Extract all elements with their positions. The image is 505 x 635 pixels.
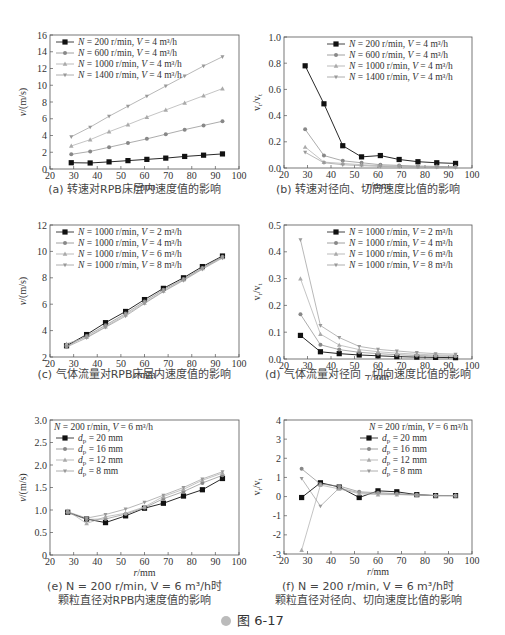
- figure-number: 图 6-17: [237, 613, 284, 628]
- plot-frame: [284, 420, 472, 554]
- caption-line: 颗粒直径对径向、切向速度比值的影响: [239, 594, 497, 608]
- y-tick-label: -3: [273, 549, 281, 560]
- y-tick-label: -1: [273, 510, 281, 521]
- x-tick-label: 50: [350, 555, 360, 566]
- legend: N = 200 r/min, V = 6 m³/hdp = 20 mmdp = …: [360, 422, 468, 478]
- x-tick-label: 40: [326, 555, 336, 566]
- chart-f: 2030405060708090100-3-2-101234r/mmvr/vtN…: [0, 0, 505, 635]
- x-tick-label: 60: [373, 555, 383, 566]
- y-tick-label: 4: [276, 415, 281, 426]
- svg-text:N = 200 r/min, V = 6 m³/h: N = 200 r/min, V = 6 m³/h: [368, 422, 468, 432]
- caption-line: (f) N = 200 r/min, V = 6 m³/h时: [239, 580, 497, 594]
- x-tick-label: 90: [444, 555, 454, 566]
- y-tick-label: 2: [276, 453, 281, 464]
- series-line: [300, 477, 458, 508]
- y-tick-label: 3: [276, 434, 281, 445]
- x-tick-label: 30: [303, 555, 313, 566]
- x-tick-label: 70: [397, 555, 407, 566]
- x-tick-label: 80: [420, 555, 430, 566]
- x-tick-label: 100: [465, 555, 480, 566]
- x-axis-label: r/mm: [367, 566, 389, 577]
- y-tick-label: -2: [273, 529, 281, 540]
- chart-caption-f: (f) N = 200 r/min, V = 6 m³/h时颗粒直径对径向、切向…: [239, 580, 497, 608]
- y-tick-label: 0: [276, 491, 281, 502]
- y-tick-label: 1: [276, 472, 281, 483]
- play-circle-icon: [221, 616, 231, 626]
- y-axis-label: vr/vt: [251, 478, 264, 495]
- svg-text:dp = 8 mm: dp = 8 mm: [382, 466, 423, 478]
- figure-label: 图 6-17: [0, 610, 505, 629]
